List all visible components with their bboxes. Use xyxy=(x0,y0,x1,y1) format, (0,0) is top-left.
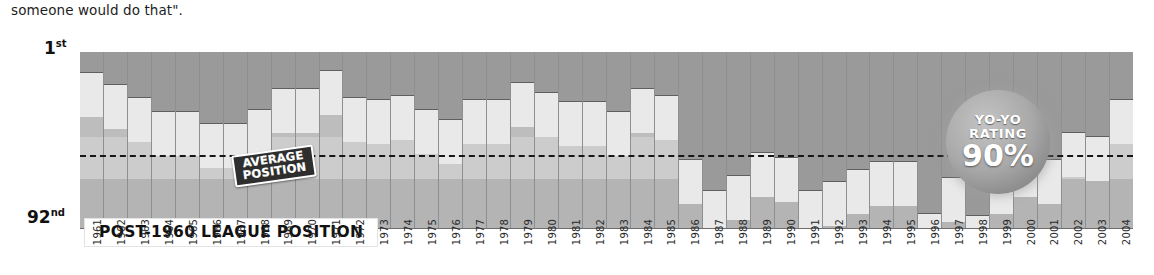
year-tick-label: 1984 xyxy=(643,219,654,245)
position-bar xyxy=(80,52,103,73)
year-tick: 1985 xyxy=(655,230,679,275)
bar-highlight xyxy=(679,160,702,204)
year-tick-label: 1987 xyxy=(714,219,725,245)
bar-highlight xyxy=(320,71,343,115)
position-bar xyxy=(631,52,654,89)
bar-column xyxy=(799,52,823,228)
x-axis-year-labels: 1961196219631964196519661967196819691970… xyxy=(80,230,1133,275)
bar-highlight xyxy=(1086,137,1109,181)
y-axis-top-label: 1st xyxy=(44,38,67,58)
year-tick-label: 1978 xyxy=(499,219,510,245)
year-tick: 1970 xyxy=(295,230,319,275)
year-tick: 1962 xyxy=(104,230,128,275)
bar-highlight xyxy=(272,89,295,133)
position-bar xyxy=(487,52,510,100)
yoyo-badge-value: 90% xyxy=(962,141,1034,171)
position-bar xyxy=(415,52,438,110)
bar-highlight xyxy=(535,93,558,137)
bar-highlight xyxy=(775,158,798,202)
year-tick-label: 1970 xyxy=(307,219,318,245)
year-tick-label: 1964 xyxy=(164,219,175,245)
bar-highlight xyxy=(248,110,271,154)
position-bar xyxy=(296,52,319,89)
bar-column xyxy=(128,52,152,228)
year-tick: 1996 xyxy=(918,230,942,275)
bar-highlight xyxy=(296,89,319,133)
year-tick-label: 1988 xyxy=(738,219,749,245)
bar-column xyxy=(894,52,918,228)
bar-highlight xyxy=(104,85,127,129)
bar-column xyxy=(415,52,439,228)
position-bar xyxy=(248,52,271,110)
position-bar xyxy=(391,52,414,96)
bar-column xyxy=(823,52,847,228)
year-tick-label: 1986 xyxy=(690,219,701,245)
year-tick: 1971 xyxy=(319,230,343,275)
year-tick-label: 1982 xyxy=(595,219,606,245)
year-tick-label: 1971 xyxy=(331,219,342,245)
year-tick-label: 1995 xyxy=(906,219,917,245)
position-bar xyxy=(703,52,726,191)
year-tick-label: 1991 xyxy=(810,219,821,245)
bar-highlight xyxy=(894,162,917,206)
year-tick-label: 1961 xyxy=(92,219,103,245)
position-bar xyxy=(439,52,462,120)
position-bar xyxy=(128,52,151,98)
bar-highlight xyxy=(870,162,893,206)
position-bar xyxy=(272,52,295,89)
year-tick-label: 1989 xyxy=(762,219,773,245)
year-tick: 1979 xyxy=(511,230,535,275)
year-tick-label: 2000 xyxy=(1026,219,1037,245)
year-tick: 1994 xyxy=(870,230,894,275)
bar-column xyxy=(847,52,871,228)
year-tick-label: 2003 xyxy=(1097,219,1108,245)
position-bar xyxy=(583,52,606,102)
year-tick-label: 1975 xyxy=(427,219,438,245)
year-tick-label: 1996 xyxy=(930,219,941,245)
year-tick: 1963 xyxy=(128,230,152,275)
year-tick: 2001 xyxy=(1038,230,1062,275)
position-bar xyxy=(655,52,678,96)
bar-highlight xyxy=(511,83,534,127)
bar-highlight xyxy=(343,98,366,142)
bar-column xyxy=(1086,52,1110,228)
bar-highlight xyxy=(655,96,678,140)
year-tick: 1997 xyxy=(942,230,966,275)
bar-column xyxy=(343,52,367,228)
bar-highlight xyxy=(559,102,582,146)
year-tick-label: 1993 xyxy=(858,219,869,245)
bar-column xyxy=(367,52,391,228)
year-tick: 1982 xyxy=(583,230,607,275)
year-tick: 1998 xyxy=(966,230,990,275)
bar-highlight xyxy=(152,112,175,156)
position-bar xyxy=(870,52,893,162)
bar-highlight xyxy=(942,178,965,222)
year-tick: 1972 xyxy=(343,230,367,275)
year-tick-label: 1968 xyxy=(260,219,271,245)
bar-column xyxy=(559,52,583,228)
position-bar xyxy=(823,52,846,182)
year-tick-label: 1998 xyxy=(978,219,989,245)
bar-column xyxy=(535,52,559,228)
bar-highlight xyxy=(1110,100,1133,144)
position-bar xyxy=(463,52,486,100)
position-bar xyxy=(104,52,127,85)
year-tick: 1991 xyxy=(798,230,822,275)
year-tick: 1988 xyxy=(726,230,750,275)
position-bar xyxy=(559,52,582,102)
bar-highlight xyxy=(415,110,438,154)
year-tick: 1993 xyxy=(846,230,870,275)
position-bar xyxy=(799,52,822,191)
bar-highlight xyxy=(391,96,414,140)
year-tick: 1977 xyxy=(463,230,487,275)
year-tick-label: 1976 xyxy=(451,219,462,245)
year-tick-label: 1983 xyxy=(619,219,630,245)
year-tick-label: 1965 xyxy=(188,219,199,245)
position-bar xyxy=(367,52,390,100)
year-tick: 1986 xyxy=(678,230,702,275)
bar-column xyxy=(679,52,703,228)
bar-column xyxy=(631,52,655,228)
bar-column xyxy=(176,52,200,228)
position-bar xyxy=(511,52,534,83)
position-bar xyxy=(224,52,247,124)
